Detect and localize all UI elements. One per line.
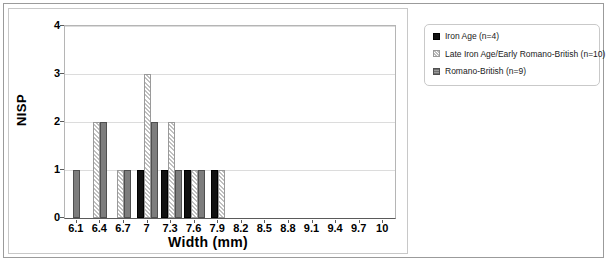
chart-page: NISP 01234 6.16.46.777.37.67.98.28.58.89… bbox=[0, 0, 613, 265]
bar-group bbox=[254, 26, 278, 218]
bar-group bbox=[206, 26, 230, 218]
x-tick-label: 10 bbox=[362, 222, 402, 234]
y-tick-label: 0 bbox=[18, 211, 60, 223]
y-tick-mark bbox=[60, 217, 64, 218]
bar bbox=[191, 170, 198, 218]
y-tick-label: 4 bbox=[18, 19, 60, 31]
legend-item[interactable]: Romano-British (n=9) bbox=[433, 67, 591, 76]
bar bbox=[144, 74, 151, 218]
hatched-swatch bbox=[433, 50, 440, 57]
bar bbox=[151, 122, 158, 218]
bar-group bbox=[112, 26, 136, 218]
y-tick-label: 1 bbox=[18, 163, 60, 175]
bar-group bbox=[65, 26, 89, 218]
bar bbox=[137, 170, 144, 218]
bar bbox=[175, 170, 182, 218]
legend-item-label: Romano-British (n=9) bbox=[445, 67, 526, 76]
chart-container: NISP 01234 6.16.46.777.37.67.98.28.58.89… bbox=[8, 8, 408, 254]
bar-group bbox=[159, 26, 183, 218]
legend-item[interactable]: Iron Age (n=4) bbox=[433, 32, 591, 41]
y-axis-tick-labels: 01234 bbox=[14, 25, 60, 219]
y-tick-label: 2 bbox=[18, 115, 60, 127]
bar bbox=[117, 170, 124, 218]
legend-item-label: Late Iron Age/Early Romano-British (n=10… bbox=[445, 50, 605, 59]
chart-legend: Iron Age (n=4)Late Iron Age/Early Romano… bbox=[424, 24, 600, 86]
bar-group bbox=[89, 26, 113, 218]
y-tick-mark bbox=[60, 73, 64, 74]
y-tick-mark bbox=[60, 169, 64, 170]
bar-group bbox=[183, 26, 207, 218]
bar-group bbox=[301, 26, 325, 218]
y-tick-mark bbox=[60, 121, 64, 122]
bar bbox=[93, 122, 100, 218]
legend-item[interactable]: Late Iron Age/Early Romano-British (n=10… bbox=[433, 50, 591, 59]
bar bbox=[211, 170, 218, 218]
bar-group bbox=[371, 26, 395, 218]
bar bbox=[198, 170, 205, 218]
bar bbox=[73, 170, 80, 218]
bar-series-layer bbox=[65, 26, 395, 218]
bar-group bbox=[348, 26, 372, 218]
solid-black-swatch bbox=[433, 33, 440, 40]
bar bbox=[124, 170, 131, 218]
bar bbox=[184, 170, 191, 218]
bar-group bbox=[277, 26, 301, 218]
x-axis-title: Width (mm) bbox=[8, 234, 408, 250]
grey-swatch bbox=[433, 68, 440, 75]
bar-group bbox=[230, 26, 254, 218]
bar bbox=[161, 170, 168, 218]
bar bbox=[218, 170, 225, 218]
bar-group bbox=[324, 26, 348, 218]
bar bbox=[100, 122, 107, 218]
bar-group bbox=[136, 26, 160, 218]
y-tick-mark bbox=[60, 25, 64, 26]
y-tick-label: 3 bbox=[18, 67, 60, 79]
legend-item-label: Iron Age (n=4) bbox=[445, 32, 499, 41]
bar bbox=[168, 122, 175, 218]
